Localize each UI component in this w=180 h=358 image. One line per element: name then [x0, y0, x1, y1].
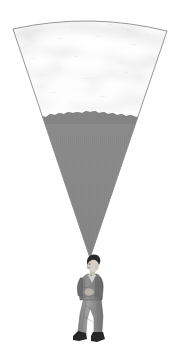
illustration-canvas [0, 0, 180, 358]
hands [84, 288, 94, 295]
ear [95, 265, 98, 269]
scene-svg [0, 0, 180, 358]
